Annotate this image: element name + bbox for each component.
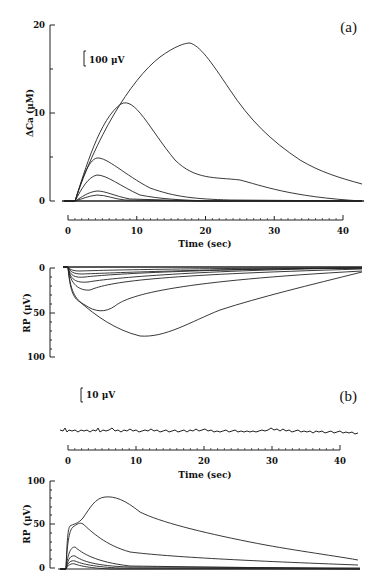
panel-a-calcium-plot: (a) 20 10 0 ΔCa (μM) 100 μV 0 10 20 30 4… [25,19,364,249]
xtick-20-b: 20 [198,456,210,466]
scale-bar-label-100uv: 100 μV [89,55,126,65]
xtick-10-a: 10 [131,226,143,236]
ytick-rp-0-a: 0 [39,263,45,273]
panel-label-b: (b) [340,388,358,405]
figure: (a) 20 10 0 ΔCa (μM) 100 μV 0 10 20 30 4… [0,0,382,588]
ytick-rp-0-b: 0 [39,563,45,573]
xtick-0-a: 0 [65,226,71,236]
xtick-0-b: 0 [65,456,71,466]
y-axis-calcium [50,25,55,201]
x-axis-label-time-b: Time (sec) [178,470,231,480]
xtick-20-a: 20 [200,226,212,236]
ytick-rp-100-a: 100 [27,352,45,362]
calcium-traces [62,43,364,201]
panel-a-rp-plot: 0 50 100 RP (μV) [22,263,362,362]
scale-bar-label-10uv: 10 μV [86,390,116,400]
scale-bar-10uv [81,388,83,402]
ytick-rp-50-a: 50 [33,308,45,318]
rp-traces-a [63,267,362,336]
xtick-10-b: 10 [130,456,142,466]
panel-label-a: (a) [340,19,357,36]
ytick-20: 20 [33,20,45,30]
panel-b-noise-plot: (b) 10 μV 0 10 20 30 40 Time (sec) [60,388,358,480]
noise-trace [60,428,358,434]
y-axis-rp-b [50,481,55,568]
y-axis-rp-a [50,268,55,357]
ytick-rp-50-b: 50 [33,519,45,529]
y-axis-label-calcium: ΔCa (μM) [25,89,35,137]
panel-b-rp-plot: 100 50 0 RP (μV) [22,476,360,573]
xtick-40-b: 40 [334,456,346,466]
y-axis-label-rp-a: RP (μV) [22,293,32,332]
xtick-30-a: 30 [268,226,280,236]
ytick-0: 0 [39,196,45,206]
ytick-rp-100-b: 100 [27,476,45,486]
y-axis-label-rp-b: RP (μV) [22,504,32,543]
x-axis-label-time-a: Time (sec) [178,239,231,249]
rp-traces-b [58,497,360,569]
scale-bar-100uv [84,51,86,66]
xtick-40-a: 40 [337,226,349,236]
xtick-30-b: 30 [266,456,278,466]
